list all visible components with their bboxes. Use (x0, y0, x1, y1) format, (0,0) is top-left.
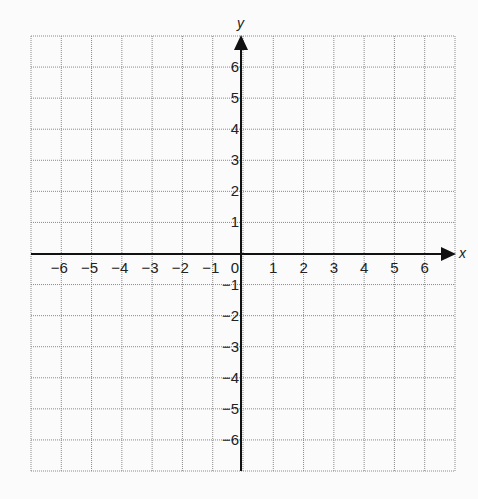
y-tick-label: 2 (231, 182, 239, 199)
x-tick-label: −6 (51, 259, 68, 276)
x-tick-label: −1 (202, 259, 219, 276)
y-tick-label: 5 (231, 89, 239, 106)
x-axis-arrow-icon (441, 247, 456, 261)
y-tick-label: −2 (222, 307, 239, 324)
y-tick-label: 4 (231, 120, 239, 137)
x-tick-label: −4 (111, 259, 128, 276)
x-tick-label: 0 (231, 259, 239, 276)
x-tick-label: 2 (299, 259, 307, 276)
y-tick-label: −6 (222, 431, 239, 448)
y-axis-label: y (236, 15, 245, 31)
y-tick-label: 6 (231, 58, 239, 75)
y-tick-label: 1 (231, 213, 239, 230)
x-tick-label: −2 (172, 259, 189, 276)
coordinate-plane: x y −6−5−4−3−2−10123456 654321−1−2−3−4−5… (0, 0, 478, 499)
y-tick-label: −5 (222, 400, 239, 417)
y-tick-label: 3 (231, 151, 239, 168)
x-axis-label: x (458, 245, 467, 261)
x-tick-label: 5 (390, 259, 398, 276)
y-axis-arrow-icon (234, 35, 248, 50)
x-tick-label: 1 (269, 259, 277, 276)
x-tick-label: 6 (421, 259, 429, 276)
x-tick-labels: −6−5−4−3−2−10123456 (51, 259, 429, 276)
y-tick-label: −1 (222, 276, 239, 293)
y-tick-label: −3 (222, 338, 239, 355)
x-tick-label: −3 (142, 259, 159, 276)
y-tick-label: −4 (222, 369, 239, 386)
x-tick-label: −5 (81, 259, 98, 276)
axes: x y (31, 15, 467, 471)
x-tick-label: 3 (330, 259, 338, 276)
x-tick-label: 4 (360, 259, 368, 276)
